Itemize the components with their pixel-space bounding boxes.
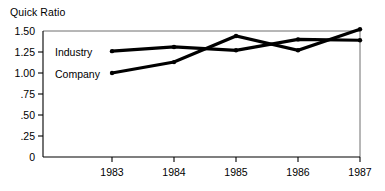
data-point-industry-1984 <box>172 45 176 49</box>
x-tick-label-1986: 1986 <box>286 166 310 178</box>
x-tick-label-1985: 1985 <box>224 166 248 178</box>
y-tick-label-1.00: 1.00 <box>15 67 36 79</box>
data-point-company-1984 <box>172 60 176 64</box>
data-point-company-1983 <box>110 71 114 75</box>
data-point-company-1986 <box>296 48 300 52</box>
chart-canvas: 1.50 1.25 1.00 .75 .50 .25 0 1983 1984 1… <box>0 0 385 191</box>
data-point-industry-1983 <box>110 49 114 53</box>
series-label-company: Company <box>55 68 101 80</box>
series-label-industry: Industry <box>55 46 93 58</box>
data-point-industry-1985 <box>234 48 238 52</box>
y-tick-label-1.25: 1.25 <box>15 46 36 58</box>
y-tick-label-0.50: .50 <box>20 109 35 121</box>
y-tick-label-1.50: 1.50 <box>15 25 36 37</box>
quick-ratio-line-chart: Quick Ratio 1.50 1.25 1.00 .75 .50 .25 0… <box>0 0 385 191</box>
data-point-company-1985 <box>234 34 238 38</box>
data-point-industry-1987 <box>358 38 362 42</box>
x-tick-label-1984: 1984 <box>162 166 186 178</box>
y-tick-label-0.75: .75 <box>20 88 35 100</box>
x-tick-label-1983: 1983 <box>100 166 124 178</box>
data-point-company-1987 <box>358 27 362 31</box>
data-point-industry-1986 <box>296 37 300 41</box>
y-tick-label-0.25: .25 <box>20 130 35 142</box>
y-tick-label-0: 0 <box>29 151 35 163</box>
x-tick-label-1987: 1987 <box>348 166 372 178</box>
series-layer <box>110 27 362 75</box>
